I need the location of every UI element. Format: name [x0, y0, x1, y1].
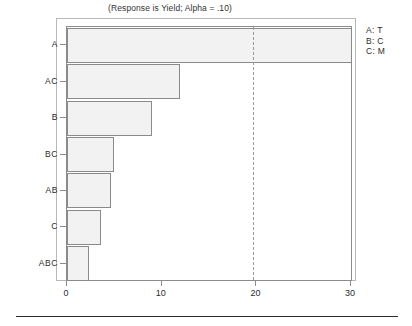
y-tick-mark: [60, 190, 66, 191]
y-tick-mark: [60, 226, 66, 227]
bar-ab: [67, 173, 111, 208]
y-tick-label-abc: ABC: [6, 258, 58, 268]
x-tick-mark: [66, 281, 67, 286]
bar-abc: [67, 246, 89, 281]
y-tick-mark: [60, 117, 66, 118]
legend-entry-2: C: M: [366, 46, 385, 57]
legend-entry-1: B: C: [366, 36, 385, 47]
y-tick-label-b: B: [6, 112, 58, 122]
y-tick-label-ac: AC: [6, 76, 58, 86]
bar-bc: [67, 137, 114, 172]
x-tick-mark: [350, 281, 351, 286]
chart-title: (Response is Yield; Alpha = .10): [0, 3, 340, 13]
y-tick-label-bc: BC: [6, 149, 58, 159]
x-tick-label-0: 0: [63, 288, 68, 298]
bar-b: [67, 101, 152, 136]
plot-area: [66, 26, 352, 281]
y-tick-label-a: A: [6, 39, 58, 49]
legend: A: TB: CC: M: [366, 25, 385, 57]
x-tick-mark: [255, 281, 256, 286]
x-tick-label-20: 20: [250, 288, 260, 298]
bar-a: [67, 28, 352, 63]
x-tick-label-30: 30: [345, 288, 355, 298]
bottom-rule: [16, 316, 398, 317]
x-tick-label-10: 10: [156, 288, 166, 298]
legend-entry-0: A: T: [366, 25, 385, 36]
y-tick-mark: [60, 44, 66, 45]
bar-c: [67, 210, 101, 245]
y-tick-mark: [60, 263, 66, 264]
x-tick-mark: [161, 281, 162, 286]
y-tick-label-c: C: [6, 221, 58, 231]
bar-ac: [67, 64, 180, 99]
y-tick-mark: [60, 154, 66, 155]
reference-line: [253, 27, 254, 280]
y-tick-mark: [60, 81, 66, 82]
y-tick-label-ab: AB: [6, 185, 58, 195]
